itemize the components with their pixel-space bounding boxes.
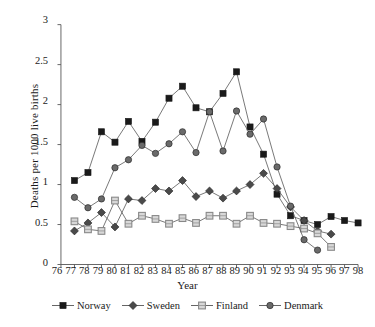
y-tick-label: 2 [24, 96, 48, 106]
chart-canvas [57, 20, 364, 281]
x-tick-label: 96 [325, 265, 336, 276]
chart-legend: NorwaySwedenFinlandDenmark [0, 300, 375, 311]
chart-root: Deaths per 1000 live births 00.511.522.5… [0, 0, 375, 327]
series-line [74, 111, 317, 250]
legend-item-norway[interactable]: Norway [52, 300, 111, 311]
y-tick-label: 1.5 [24, 137, 48, 147]
x-tick-label: 85 [175, 265, 186, 276]
plot-area [57, 20, 358, 263]
x-tick-label: 81 [120, 265, 131, 276]
y-tick-label: 2.5 [24, 56, 48, 66]
x-tick-label: 95 [312, 265, 323, 276]
x-tick-label: 92 [271, 265, 282, 276]
x-tick-label: 94 [298, 265, 309, 276]
y-axis-tick-labels: 00.511.522.53 [24, 0, 48, 327]
legend-marker-open-square-icon [191, 300, 213, 311]
x-tick-label: 82 [134, 265, 145, 276]
x-tick-label: 79 [93, 265, 104, 276]
legend-label: Finland [216, 300, 248, 311]
x-tick-label: 93 [284, 265, 295, 276]
x-tick-label: 84 [161, 265, 172, 276]
legend-label: Denmark [284, 300, 323, 311]
x-tick-label: 76 [52, 265, 63, 276]
legend-item-finland[interactable]: Finland [191, 300, 248, 311]
x-tick-label: 89 [230, 265, 241, 276]
x-tick-label: 83 [148, 265, 159, 276]
x-tick-label: 77 [65, 265, 76, 276]
legend-label: Sweden [147, 300, 180, 311]
x-tick-label: 78 [79, 265, 90, 276]
y-tick-label: 0.5 [24, 218, 48, 228]
x-tick-label: 86 [189, 265, 200, 276]
series-denmark [71, 108, 320, 253]
y-tick-label: 0 [24, 258, 48, 268]
x-tick-label: 97 [339, 265, 350, 276]
x-tick-label: 87 [202, 265, 213, 276]
legend-marker-filled-square-icon [52, 300, 74, 311]
series-finland [71, 197, 334, 250]
x-axis-tick-labels: 7677787980818283848586878889909192939495… [57, 265, 358, 279]
x-tick-label: 80 [106, 265, 117, 276]
legend-item-sweden[interactable]: Sweden [122, 300, 180, 311]
y-tick-label: 3 [24, 15, 48, 25]
x-tick-label: 91 [257, 265, 268, 276]
legend-marker-filled-circle-icon [259, 300, 281, 311]
x-tick-label: 90 [243, 265, 254, 276]
legend-item-denmark[interactable]: Denmark [259, 300, 323, 311]
legend-label: Norway [77, 300, 111, 311]
y-tick-label: 1 [24, 177, 48, 187]
x-tick-label: 88 [216, 265, 227, 276]
x-tick-label: 98 [353, 265, 364, 276]
legend-marker-filled-diamond-icon [122, 300, 144, 311]
x-axis-title: Year [0, 279, 375, 291]
